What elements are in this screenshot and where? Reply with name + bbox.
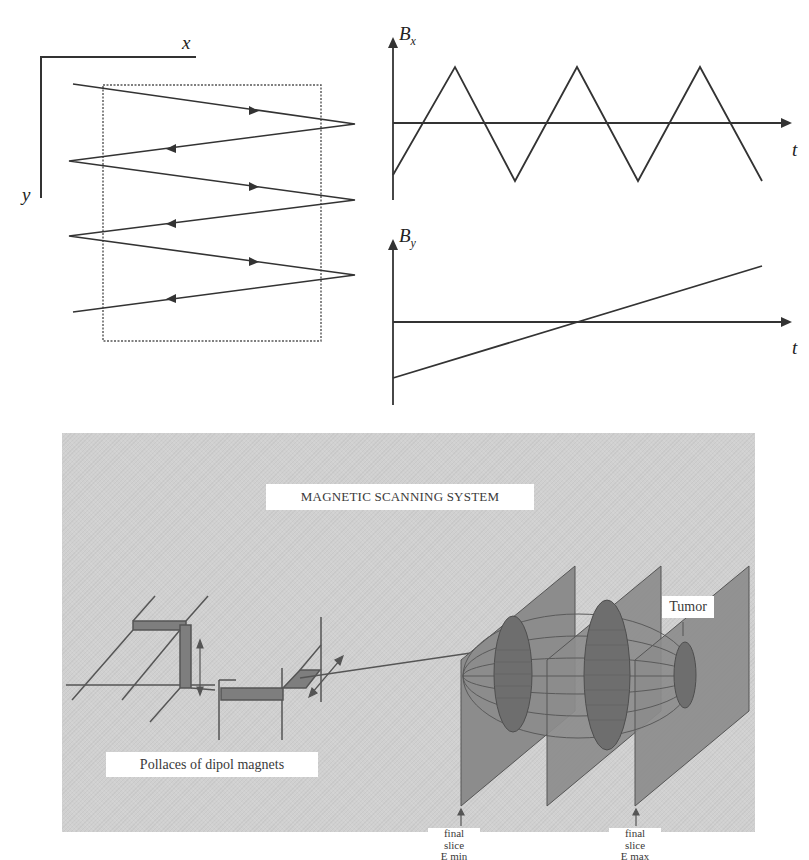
slice-emin-label: final slice E min (428, 828, 480, 860)
scanning-system-title: MAGNETIC SCANNING SYSTEM (266, 484, 534, 510)
scan-path (69, 84, 355, 312)
xy-axes (41, 57, 196, 198)
figure: x y Bx t By t (0, 0, 809, 860)
slice-emax-label: final slice E max (609, 828, 661, 860)
bx-plot (360, 0, 809, 215)
target-field-outline (103, 85, 321, 341)
scan-direction-arrows (166, 106, 259, 303)
magnet-1-top-face (133, 621, 186, 630)
bx-y-label: Bx (399, 24, 416, 47)
bx-waveform (393, 67, 762, 181)
bx-t-label: t (792, 140, 797, 159)
by-y-label: By (399, 226, 416, 249)
vertical-deflection-arrow (197, 640, 203, 695)
dipole-magnet-2 (219, 617, 321, 740)
by-plot (360, 215, 809, 415)
magnet-2-bottom-face (221, 688, 283, 700)
bx-axis-arrow-right (781, 118, 792, 128)
tumor-section-emax (674, 642, 696, 708)
by-axis-arrow-right (781, 317, 792, 327)
y-axis-label: y (22, 185, 30, 204)
x-axis-label: x (182, 33, 190, 52)
by-t-label: t (792, 338, 797, 357)
dipole-magnets-label: Pollaces of dipol magnets (106, 752, 318, 777)
magnet-2-top-face (283, 670, 320, 688)
bx-axis-arrow-up (388, 37, 398, 48)
magnet-1-side-face (180, 625, 191, 688)
tumor-label: Tumor (662, 596, 714, 618)
slice-marker-arrows (458, 809, 639, 826)
dipole-magnet-1 (72, 596, 215, 722)
by-axis-arrow-up (388, 239, 398, 250)
